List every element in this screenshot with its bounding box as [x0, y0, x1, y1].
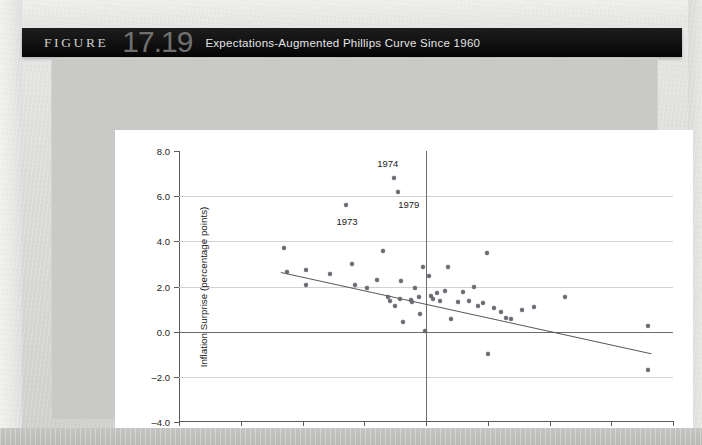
scatter-point	[381, 249, 385, 253]
paper-edge-top	[0, 0, 702, 26]
y-tick-label: 8.0	[157, 146, 170, 157]
x-tick	[488, 421, 489, 426]
scatter-point	[285, 270, 289, 274]
scatter-point	[344, 203, 348, 207]
point-annotation-1974: 1974	[377, 158, 398, 169]
x-zero-line	[426, 151, 427, 422]
scatter-point	[504, 316, 508, 320]
y-tick	[174, 151, 179, 152]
scatter-point	[446, 265, 450, 269]
scatter-point	[520, 308, 524, 312]
y-tick-label: 2.0	[157, 281, 170, 292]
figure-title: Expectations-Augmented Phillips Curve Si…	[205, 37, 480, 49]
y-tick-label: –4.0	[152, 417, 171, 428]
scatter-point	[375, 278, 379, 282]
point-annotation-1979: 1979	[398, 199, 419, 210]
y-axis-title: Inflation Surprise (percentage points)	[198, 206, 209, 367]
scatter-point	[438, 299, 442, 303]
scatter-point	[282, 246, 286, 250]
scatter-point	[486, 352, 490, 356]
scatter-point	[421, 265, 425, 269]
scatter-point	[304, 268, 308, 272]
figure-header-bar: FIGURE 17.19 Expectations-Augmented Phil…	[22, 28, 682, 57]
y-tick	[174, 332, 179, 333]
scatter-point	[393, 304, 397, 308]
scatter-point	[435, 291, 439, 295]
scatter-point	[646, 324, 650, 328]
x-tick	[179, 421, 180, 426]
plot-area: 8.06.04.02.00.0–2.0–4.0–4.0–3.0–2.0–1.00…	[179, 151, 673, 422]
scatter-point	[401, 320, 405, 324]
scatter-point	[449, 317, 453, 321]
scatter-point	[476, 304, 480, 308]
scatter-point	[413, 286, 417, 290]
y-tick	[174, 377, 179, 378]
scatter-point	[563, 295, 567, 299]
x-tick	[241, 421, 242, 426]
y-tick-label: –2.0	[152, 371, 171, 382]
scatter-point	[472, 285, 476, 289]
scatter-point	[418, 312, 422, 316]
scatter-point	[532, 305, 536, 309]
paper-edge-left	[0, 0, 22, 445]
scatter-point	[388, 299, 392, 303]
scatter-point	[427, 274, 431, 278]
scatter-point	[509, 317, 513, 321]
scatter-point	[410, 300, 414, 304]
scatter-point	[431, 297, 435, 301]
x-tick	[303, 421, 304, 426]
y-tick	[174, 241, 179, 242]
figure-label: FIGURE	[44, 35, 108, 51]
scatter-point	[398, 297, 402, 301]
point-annotation-1973: 1973	[336, 216, 357, 227]
scatter-point	[485, 251, 489, 255]
scatter-point	[646, 368, 650, 372]
scatter-point	[481, 301, 485, 305]
figure-number: 17.19	[122, 27, 192, 57]
scatter-point	[396, 190, 400, 194]
page-bottom-strip	[0, 428, 702, 445]
x-tick	[673, 421, 674, 426]
y-tick	[174, 287, 179, 288]
y-tick-label: 0.0	[157, 326, 170, 337]
scatter-point	[328, 272, 332, 276]
scatter-point	[392, 176, 396, 180]
scatter-point	[499, 310, 503, 314]
x-tick	[426, 421, 427, 426]
scatter-point	[456, 300, 460, 304]
y-tick-label: 6.0	[157, 191, 170, 202]
x-tick	[364, 421, 365, 426]
scatter-point	[467, 299, 471, 303]
chart-card: 8.06.04.02.00.0–2.0–4.0–4.0–3.0–2.0–1.00…	[115, 130, 693, 445]
scatter-point	[399, 279, 403, 283]
scatter-point	[423, 329, 427, 333]
scatter-point	[350, 262, 354, 266]
x-tick	[550, 421, 551, 426]
scatter-point	[461, 290, 465, 294]
scatter-point	[365, 286, 369, 290]
figure-panel: 8.06.04.02.00.0–2.0–4.0–4.0–3.0–2.0–1.00…	[51, 58, 658, 420]
scatter-point	[386, 295, 390, 299]
y-tick-label: 4.0	[157, 236, 170, 247]
x-tick	[611, 421, 612, 426]
scatter-point	[492, 306, 496, 310]
y-tick	[174, 196, 179, 197]
scatter-point	[443, 289, 447, 293]
scatter-point	[417, 295, 421, 299]
